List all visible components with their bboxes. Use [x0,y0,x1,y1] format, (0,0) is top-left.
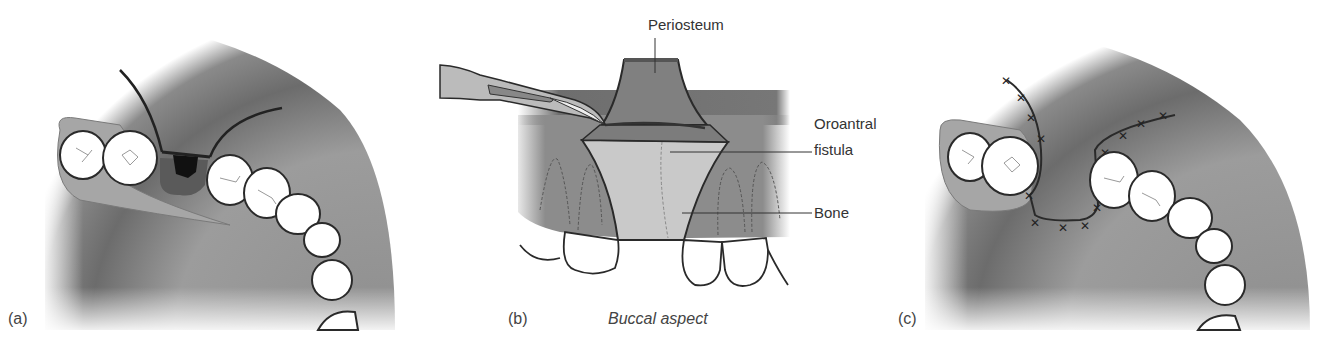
sutured-flap-illustration: ✕✕✕ ✕✕✕ ✕✕✕ ✕✕✕✕ [880,0,1329,343]
svg-text:✕: ✕ [1016,91,1026,105]
panel-label-b: (b) [508,310,528,328]
svg-text:✕: ✕ [1080,219,1090,233]
caption-buccal-aspect: Buccal aspect [608,310,708,328]
svg-text:✕: ✕ [1001,74,1011,88]
label-oroantral: Oroantral [814,114,877,133]
panel-b: Periosteum Oroantral fistula Bone (b) Bu… [400,0,880,343]
label-fistula: fistula [814,140,853,159]
svg-text:✕: ✕ [1026,111,1036,125]
svg-text:✕: ✕ [1136,117,1146,131]
label-bone: Bone [814,203,849,222]
panel-a: (a) [0,0,400,343]
panel-c: ✕✕✕ ✕✕✕ ✕✕✕ ✕✕✕✕ (c) [880,0,1329,343]
panel-label-a: (a) [8,310,28,328]
svg-text:✕: ✕ [1118,129,1128,143]
svg-text:✕: ✕ [1030,216,1040,230]
svg-text:✕: ✕ [1158,109,1168,123]
buccal-aspect-illustration [400,0,880,343]
svg-text:✕: ✕ [1036,132,1046,146]
occlusal-view-illustration [0,0,400,343]
label-periosteum: Periosteum [648,15,724,34]
panel-label-c: (c) [898,310,917,328]
svg-text:✕: ✕ [1058,221,1068,235]
